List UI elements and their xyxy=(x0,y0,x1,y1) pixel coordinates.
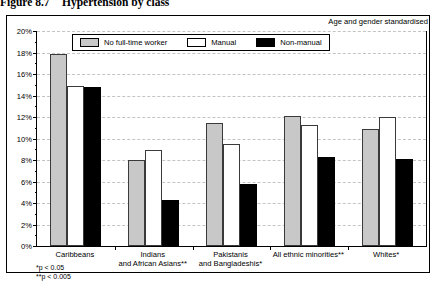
y-axis-tick-label: 16% xyxy=(17,70,32,79)
bar-no-full-time-worker xyxy=(362,129,379,246)
legend-label: Manual xyxy=(211,38,236,47)
bar-non-manual xyxy=(84,87,101,246)
legend-label: Non-manual xyxy=(280,38,321,47)
page-title: Hypertension by class xyxy=(62,0,169,8)
figure-container: Figure 8.7 Hypertension by class Age and… xyxy=(0,0,432,289)
bar-non-manual xyxy=(162,200,179,246)
legend-item: Non-manual xyxy=(256,38,321,47)
figure-number: Figure 8.7 xyxy=(0,0,50,8)
plot-area: 0%2%4%6%8%10%12%14%16%18%20% xyxy=(36,31,427,247)
footnotes: *p < 0.05 **p < 0.005 xyxy=(36,264,71,281)
chart-legend: No full-time workerManualNon-manual xyxy=(72,34,330,51)
bar-group xyxy=(348,31,426,246)
footnote-single-star: *p < 0.05 xyxy=(36,264,71,273)
bar-non-manual xyxy=(396,159,413,246)
figure-title-row: Figure 8.7 Hypertension by class xyxy=(0,0,432,10)
y-axis-tick-major xyxy=(33,246,37,247)
legend-label: No full-time worker xyxy=(104,38,167,47)
bar-manual xyxy=(223,144,240,246)
y-axis-tick-label: 4% xyxy=(21,199,32,208)
y-axis-tick-label: 10% xyxy=(17,134,32,143)
bar-group xyxy=(193,31,271,246)
legend-swatch-no-full-time-worker xyxy=(80,38,99,47)
y-axis-tick-label: 0% xyxy=(21,242,32,251)
legend-swatch-manual xyxy=(187,38,206,47)
x-axis-category-label: Whites* xyxy=(347,250,425,259)
bar-manual xyxy=(301,125,318,246)
bar-group xyxy=(37,31,115,246)
legend-item: Manual xyxy=(187,38,256,47)
bar-no-full-time-worker xyxy=(128,160,145,246)
y-axis-tick-label: 20% xyxy=(17,27,32,36)
x-axis-category-label: Indians and African Asians** xyxy=(114,250,192,268)
bar-no-full-time-worker xyxy=(206,123,223,246)
bar-group xyxy=(115,31,193,246)
bar-manual xyxy=(379,117,396,246)
bar-no-full-time-worker xyxy=(284,116,301,246)
y-axis-tick-label: 18% xyxy=(17,48,32,57)
y-axis-tick-label: 12% xyxy=(17,113,32,122)
bar-non-manual xyxy=(240,184,257,246)
y-axis-tick-label: 2% xyxy=(21,220,32,229)
bar-manual xyxy=(67,86,84,246)
bar-non-manual xyxy=(318,157,335,246)
bar-no-full-time-worker xyxy=(50,54,67,246)
footnote-double-star: **p < 0.005 xyxy=(36,273,71,282)
bar-manual xyxy=(145,150,162,246)
y-axis-tick-label: 6% xyxy=(21,177,32,186)
x-axis-category-label: Pakistanis and Bangladeshis* xyxy=(192,250,270,268)
x-axis-category-label: All ethnic minorities** xyxy=(269,250,347,259)
legend-item: No full-time worker xyxy=(80,38,187,47)
y-axis-tick-label: 8% xyxy=(21,156,32,165)
y-axis-tick-label: 14% xyxy=(17,91,32,100)
bar-group xyxy=(270,31,348,246)
legend-swatch-non-manual xyxy=(256,38,275,47)
x-axis-category-label: Caribbeans xyxy=(36,250,114,259)
standardisation-note: Age and gender standardised xyxy=(328,17,428,26)
